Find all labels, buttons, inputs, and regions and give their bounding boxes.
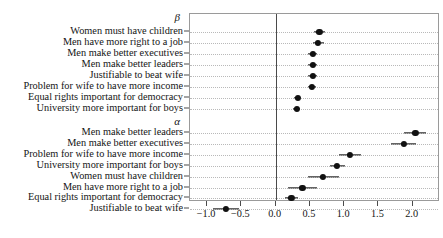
x-tick-label: −0.5 xyxy=(231,208,250,219)
x-tick xyxy=(343,201,344,206)
row-label: Women must have children xyxy=(70,26,183,36)
estimate-point xyxy=(294,106,300,112)
estimate-point xyxy=(310,62,316,68)
x-axis: −1.0−0.50.00.51.01.52.0 xyxy=(189,201,439,231)
estimate-point xyxy=(299,185,305,191)
gridline xyxy=(190,133,438,134)
row-label: Justifiable to beat wife xyxy=(89,203,183,213)
row-tick xyxy=(184,108,189,109)
x-tick xyxy=(412,201,413,206)
row-label: Men make better executives xyxy=(67,48,183,58)
row-label: Women must have children xyxy=(70,171,183,181)
x-tick xyxy=(377,201,378,206)
row-label: University more important for boys xyxy=(37,160,183,170)
row-tick xyxy=(184,143,189,144)
estimate-point xyxy=(320,174,326,180)
gridline xyxy=(190,109,438,110)
x-tick xyxy=(309,201,310,206)
x-tick xyxy=(206,201,207,206)
row-tick xyxy=(184,97,189,98)
row-label: Equal rights important for democracy xyxy=(28,92,183,102)
row-label: Problem for wife to have more income xyxy=(23,81,183,91)
row-tick xyxy=(184,64,189,65)
category-label-column: β Women must have children Men have more… xyxy=(0,0,186,238)
row-tick xyxy=(184,154,189,155)
row-tick xyxy=(184,197,189,198)
gridline xyxy=(190,198,438,199)
estimate-point xyxy=(401,141,407,147)
row-tick xyxy=(184,31,189,32)
row-label: Men make better leaders xyxy=(82,127,184,137)
row-tick xyxy=(184,176,189,177)
coefficient-plot-figure: β Women must have children Men have more… xyxy=(0,0,443,238)
row-label: University more important for boys xyxy=(37,103,183,113)
x-tick-label: 1.5 xyxy=(371,208,384,219)
estimate-point xyxy=(310,51,316,57)
x-tick-label: 1.0 xyxy=(337,208,350,219)
row-tick xyxy=(184,75,189,76)
row-tick xyxy=(184,165,189,166)
x-tick-label: 0.0 xyxy=(268,208,281,219)
x-tick-label: 0.5 xyxy=(302,208,315,219)
panel-title-beta: β xyxy=(175,11,180,23)
row-label: Men have more right to a job xyxy=(63,37,183,47)
x-tick-label: −1.0 xyxy=(197,208,216,219)
row-tick xyxy=(184,53,189,54)
row-tick xyxy=(184,132,189,133)
gridline xyxy=(190,98,438,99)
plot-area xyxy=(189,13,439,201)
row-label: Men make better leaders xyxy=(82,59,184,69)
estimate-point xyxy=(310,73,316,79)
row-tick xyxy=(184,208,189,209)
zero-reference-line xyxy=(276,14,277,200)
row-label: Problem for wife to have more income xyxy=(23,149,183,159)
estimate-point xyxy=(316,29,322,35)
estimate-point xyxy=(315,40,321,46)
row-label: Justifiable to beat wife xyxy=(89,70,183,80)
x-tick xyxy=(275,201,276,206)
row-label: Men make better executives xyxy=(67,138,183,148)
gridline xyxy=(190,155,438,156)
gridline xyxy=(190,166,438,167)
row-tick xyxy=(184,187,189,188)
estimate-point xyxy=(412,130,418,136)
estimate-point xyxy=(309,84,315,90)
estimate-point xyxy=(294,95,300,101)
estimate-point xyxy=(346,152,352,158)
row-tick xyxy=(184,42,189,43)
estimate-point xyxy=(334,163,340,169)
row-tick xyxy=(184,86,189,87)
x-tick xyxy=(240,201,241,206)
x-tick-label: 2.0 xyxy=(405,208,418,219)
row-label: Equal rights important for democracy xyxy=(28,192,183,202)
